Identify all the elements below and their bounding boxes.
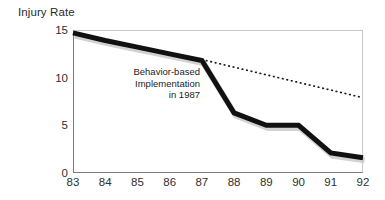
behavior-based-implementation-note: Behavior-based Implementation in 1987: [112, 66, 200, 101]
annotation-line-1: Behavior-based: [112, 66, 200, 78]
x-tick-label: 92: [343, 176, 383, 188]
injury-rate-chart: Injury Rate 151050 83848586878889909192 …: [0, 0, 385, 200]
annotation-line-3: in 1987: [112, 89, 200, 101]
annotation-line-2: Implementation: [112, 78, 200, 90]
